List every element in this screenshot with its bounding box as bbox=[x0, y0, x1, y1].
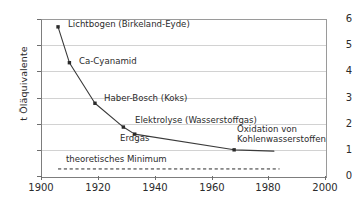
data-point-marker bbox=[68, 61, 71, 64]
data-point-marker bbox=[122, 125, 125, 128]
annotation-oxidation-line1: Oxidation von bbox=[237, 124, 297, 134]
data-point-marker bbox=[56, 25, 59, 28]
chart-container: t Öläquivalente 6 5 4 3 2 1 0 1900 1920 … bbox=[0, 0, 352, 200]
annotation-theoretisches-minimum: theoretisches Minimum bbox=[66, 154, 167, 164]
annotation-haber-bosch: Haber-Bosch (Koks) bbox=[104, 93, 187, 103]
annotation-oxidation-line2: Kohlenwasserstoffen bbox=[237, 134, 326, 144]
annotation-ca-cyanamid: Ca-Cyanamid bbox=[79, 56, 137, 66]
annotation-lichtbogen: Lichtbogen (Birkeland-Eyde) bbox=[68, 19, 190, 29]
data-point-marker bbox=[232, 148, 235, 151]
data-point-marker bbox=[93, 102, 96, 105]
annotation-erdgas: Erdgas bbox=[120, 133, 149, 143]
